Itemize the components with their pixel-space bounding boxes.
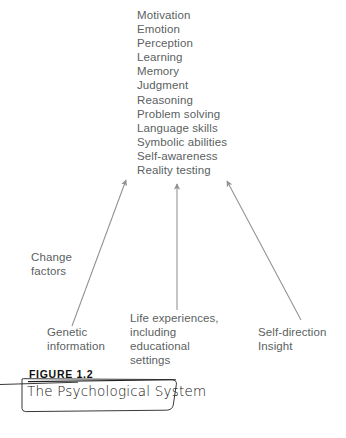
source-line: information [47,339,137,353]
psychological-system-figure: Motivation Emotion Perception Learning M… [0,0,346,438]
outcome-item: Language skills [137,121,327,135]
outcome-item: Learning [137,50,327,64]
outcome-item: Symbolic abilities [137,135,327,149]
outcome-item: Problem solving [137,107,327,121]
source-line: including educational [130,325,235,353]
outcome-list: Motivation Emotion Perception Learning M… [137,8,327,177]
change-factors-label: Change factors [31,250,72,278]
change-factors-line2: factors [31,264,72,278]
source-line: Life experiences, [130,311,235,325]
source-line: Insight [258,339,342,353]
source-life-experiences: Life experiences, including educational … [130,311,235,367]
self-direction-arrow [227,181,301,320]
outcome-item: Self-awareness [137,149,327,163]
figure-title: The Psychological System [27,383,206,399]
outcome-item: Motivation [137,8,327,22]
source-line: settings [130,353,235,367]
outcome-item: Reality testing [137,163,327,177]
figure-number-underline [28,380,176,382]
change-factors-line1: Change [31,250,72,264]
outcome-item: Emotion [137,22,327,36]
source-line: Genetic [47,325,137,339]
source-self-direction: Self-direction Insight [258,325,342,353]
source-genetic-information: Genetic information [47,325,137,353]
outcome-item: Reasoning [137,93,327,107]
genetic-arrow [72,180,126,326]
figure-number: FIGURE 1.2 [29,368,93,380]
outcome-item: Perception [137,36,327,50]
outcome-item: Memory [137,64,327,78]
source-line: Self-direction [258,325,342,339]
outcome-item: Judgment [137,78,327,92]
figure-caption: FIGURE 1.2 The Psychological System [0,368,346,428]
